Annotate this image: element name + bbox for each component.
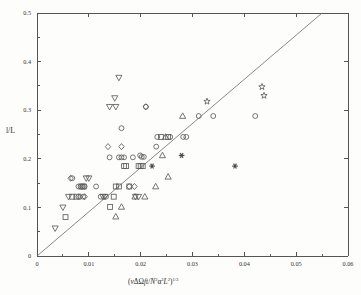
x-tick-label: 0.01 <box>83 260 94 267</box>
y-tick-label: 0.4 <box>23 58 31 65</box>
plot-canvas: 00.010.020.030.040.050.0600.10.20.30.40.… <box>0 0 361 295</box>
figure-background <box>0 0 361 295</box>
y-axis-title: l/L <box>6 126 15 135</box>
x-tick-label: 0.02 <box>135 260 146 267</box>
y-tick-label: 0.2 <box>23 155 31 162</box>
x-tick-label: 0.05 <box>291 260 302 267</box>
x-tick-label: 0.04 <box>239 260 250 267</box>
scatter-plot-figure: 00.010.020.030.040.050.0600.10.20.30.40.… <box>0 0 361 295</box>
y-tick-label: 0.1 <box>23 204 31 211</box>
y-tick-label: 0.3 <box>23 106 31 113</box>
y-tick-label: 0.5 <box>23 9 31 16</box>
x-tick-label: 0.06 <box>343 260 354 267</box>
x-tick-label: 0 <box>35 260 38 267</box>
x-tick-label: 0.03 <box>187 260 198 267</box>
x-axis-title: (vΔΩft/N2α3L2)1/3 <box>128 277 179 286</box>
formula-power: 1/3 <box>172 277 179 282</box>
x-axis-title-text: (vΔΩft/N2α3L2)1/3 <box>128 277 179 286</box>
y-tick-label: 0 <box>28 252 31 259</box>
